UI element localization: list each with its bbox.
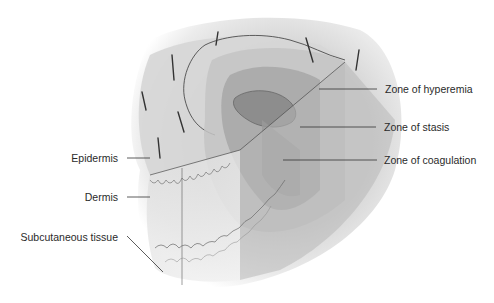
label-zone-of-coagulation: Zone of coagulation	[384, 154, 476, 166]
label-subcutaneous-tissue: Subcutaneous tissue	[10, 231, 118, 243]
label-dermis: Dermis	[60, 191, 118, 203]
label-zone-of-stasis: Zone of stasis	[384, 121, 449, 133]
label-zone-of-hyperemia: Zone of hyperemia	[385, 83, 473, 95]
label-epidermis: Epidermis	[60, 152, 118, 164]
